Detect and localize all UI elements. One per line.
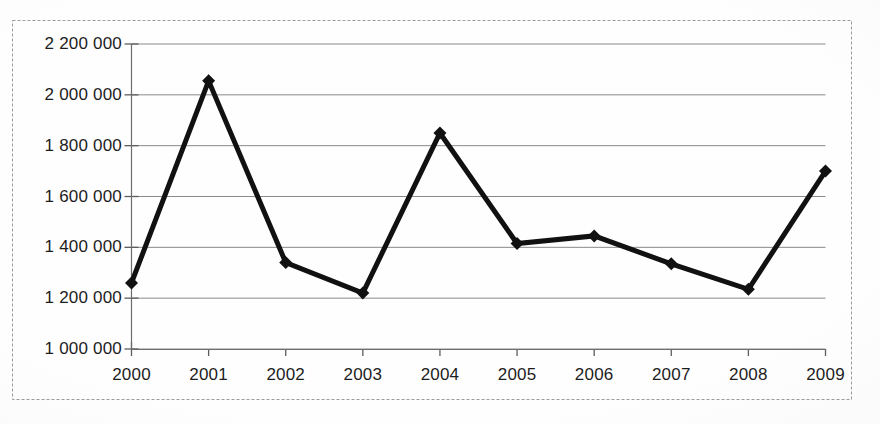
x-axis-tick-label: 2004 xyxy=(421,365,460,385)
y-axis-tick-label: 1 400 000 xyxy=(22,237,122,257)
y-axis-tick-label: 1 800 000 xyxy=(22,136,122,156)
chart-container: 1 000 0001 200 0001 400 0001 600 0001 80… xyxy=(0,0,880,424)
x-axis-tick-label: 2000 xyxy=(112,365,151,385)
x-axis-tick-label: 2008 xyxy=(729,365,768,385)
x-axis-tick-label: 2006 xyxy=(575,365,614,385)
x-axis-tick-label: 2007 xyxy=(652,365,691,385)
x-axis-tick-label: 2005 xyxy=(498,365,537,385)
data-point-marker xyxy=(665,257,678,270)
gridlines-group xyxy=(132,44,826,349)
data-point-marker xyxy=(588,229,601,242)
line-chart-plot xyxy=(0,0,880,424)
y-axis-tick-label: 1 600 000 xyxy=(22,187,122,207)
chart-outer-border xyxy=(13,21,852,400)
y-axis-tick-label: 2 000 000 xyxy=(22,85,122,105)
x-axis-tick-label: 2009 xyxy=(806,365,845,385)
y-axis-tick-label: 1 200 000 xyxy=(22,288,122,308)
data-point-marker xyxy=(125,276,138,289)
data-series-line xyxy=(132,81,826,293)
x-axis-tick-label: 2002 xyxy=(266,365,305,385)
y-axis-tick-label: 1 000 000 xyxy=(22,339,122,359)
y-axis-tick-label: 2 200 000 xyxy=(22,34,122,54)
x-axis-tick-label: 2001 xyxy=(189,365,228,385)
x-axis-tick-label: 2003 xyxy=(344,365,383,385)
